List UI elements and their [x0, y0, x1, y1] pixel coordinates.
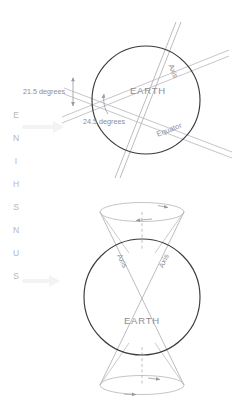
angle-annotation-21-5: 21.5 degrees [23, 78, 73, 106]
equator-line-upper [62, 50, 229, 117]
cone-upper-side-right [155, 212, 184, 253]
earth-circle-top [92, 46, 200, 154]
axis-label-top: Axis [167, 63, 181, 80]
angle-21-5-label: 21.5 degrees [23, 87, 65, 96]
cone-lower-side-right [155, 343, 184, 385]
precession-direction-arrow-lower-inner [148, 378, 160, 380]
earth-circle-bottom [84, 239, 200, 355]
sunshine-letter-e: E [13, 110, 19, 120]
sunshine-letter-s2: S [13, 271, 19, 281]
sunshine-letter-i: I [15, 156, 17, 166]
earth-precession-figure: E N I H S N U S [0, 0, 232, 405]
precession-cone-upper [100, 203, 184, 254]
precession-direction-arrow-upper-outer [158, 206, 168, 208]
sunshine-arrow-lower [24, 275, 60, 287]
earth-axis-band [115, 22, 181, 178]
sunshine-letter-s1: S [13, 202, 19, 212]
sunshine-letter-u: U [13, 248, 19, 258]
precession-direction-arrow-upper-inner [136, 219, 152, 221]
sunshine-letter-n2: N [13, 225, 19, 235]
earth-axis-line-2 [120, 22, 181, 178]
angle-24-5-label: 24.5 degrees [83, 117, 125, 126]
cone-lower-side-left [100, 343, 129, 385]
earth-axis-line-1 [115, 22, 176, 178]
earth-label-top: EARTH [130, 85, 166, 96]
axis-label-bottom-right: Axis [157, 252, 171, 269]
diagram-canvas: E N I H S N U S [0, 0, 232, 405]
orbital-plane-line-2 [64, 94, 232, 158]
sunshine-arrow-upper [24, 121, 64, 133]
sunshine-arrow-lower-head [49, 275, 60, 287]
sunshine-letter-n1: N [13, 133, 19, 143]
bottom-diagram-group: Axis Axis EARTH [84, 203, 200, 395]
cone-upper-side-left [100, 212, 129, 253]
sunshine-letter-h: H [13, 179, 19, 189]
top-diagram-group: EARTH Axis Equator 21.5 degrees 24.5 deg… [23, 22, 232, 178]
precession-cone-lower [100, 343, 184, 395]
equator-label-top: Equator [155, 120, 183, 138]
angle-annotation-24-5: 24.5 degrees [83, 94, 125, 126]
sunshine-vertical-label: E N I H S N U S [13, 110, 19, 281]
axis-label-bottom-left: Axis [115, 253, 129, 270]
earth-label-bottom: EARTH [124, 315, 160, 326]
